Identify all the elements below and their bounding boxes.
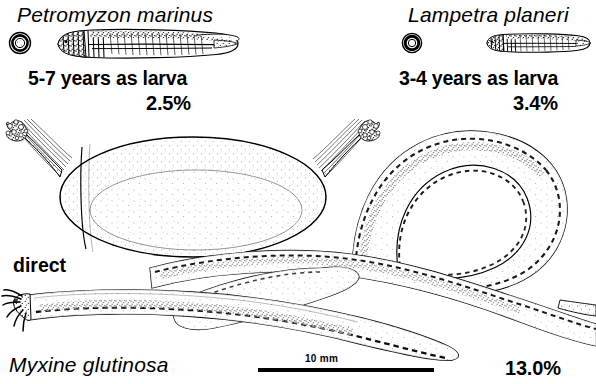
- scale-bar-label: 10 mm: [305, 354, 338, 364]
- percentage-petromyzon: 2.5%: [146, 93, 191, 113]
- percentage-lampetra: 3.4%: [513, 93, 558, 113]
- cyclostome-life-history-illustration: [0, 0, 596, 384]
- percentage-myxine: 13.0%: [505, 358, 561, 378]
- development-text-myxine: direct: [13, 256, 66, 276]
- species-name-petromyzon: Petromyzon marinus: [17, 4, 213, 25]
- development-text-lampetra: 3-4 years as larva: [399, 69, 558, 89]
- species-name-myxine: Myxine glutinosa: [9, 354, 169, 375]
- development-text-petromyzon: 5-7 years as larva: [28, 69, 187, 89]
- species-name-lampetra: Lampetra planeri: [408, 4, 569, 25]
